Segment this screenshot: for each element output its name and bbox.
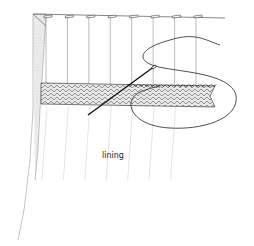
lining-fold-line <box>42 106 47 180</box>
thread-loop <box>131 37 236 129</box>
lining-fold-line <box>106 106 111 180</box>
lining-fold-line <box>85 106 90 180</box>
lining-fold-line <box>128 106 133 180</box>
label-lining: lining <box>102 151 124 160</box>
lining-fold-line <box>149 106 154 180</box>
lining-fold-line <box>63 106 68 180</box>
lining-fold-line <box>171 106 176 180</box>
curtain-side-hem <box>18 14 46 240</box>
pleat-tab <box>173 15 181 18</box>
pleat-tab <box>151 15 159 18</box>
pleat-tab <box>65 15 73 18</box>
sewing-diagram: lining <box>0 0 254 246</box>
pleat-tab <box>130 15 138 18</box>
